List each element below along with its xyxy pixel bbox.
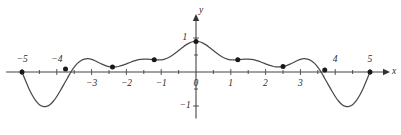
y-tick-label-1: 1 — [183, 33, 188, 43]
x-axis-arrow-icon — [383, 69, 390, 75]
function-graph-figure: −5−4−3−2−10123451−1 x y — [0, 0, 401, 135]
data-point-marker — [194, 39, 199, 44]
data-point-marker — [20, 70, 25, 75]
data-point-marker — [110, 64, 115, 69]
x-tick-label-1: 1 — [228, 79, 233, 89]
axes-group — [6, 14, 390, 119]
data-point-marker — [322, 67, 327, 72]
x-tick-label--5: −5 — [17, 55, 28, 65]
data-point-marker — [235, 57, 240, 62]
y-axis-label: y — [199, 6, 203, 16]
x-axis-label: x — [392, 67, 396, 77]
x-tick-label-3: 3 — [298, 79, 303, 89]
x-tick-label--4: −4 — [51, 55, 62, 65]
x-tick-label-0: 0 — [194, 79, 199, 89]
x-tick-label-5: 5 — [368, 55, 373, 65]
x-tick-label--1: −1 — [156, 79, 167, 89]
x-tick-label-2: 2 — [263, 79, 268, 89]
x-tick-label-4: 4 — [333, 55, 338, 65]
data-point-marker — [63, 66, 68, 71]
y-tick-label--1: −1 — [180, 101, 191, 111]
x-tick-label--2: −2 — [121, 79, 132, 89]
data-point-marker — [281, 64, 286, 69]
data-point-marker — [152, 57, 157, 62]
x-tick-label--3: −3 — [86, 79, 97, 89]
data-point-marker — [368, 70, 373, 75]
plot-canvas — [0, 0, 401, 135]
